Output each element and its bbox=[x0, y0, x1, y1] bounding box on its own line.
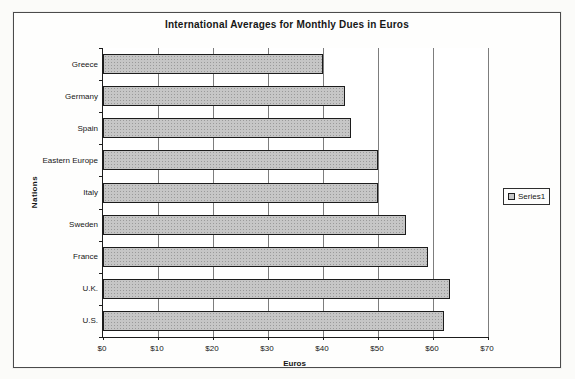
y-tick-mark bbox=[99, 273, 103, 274]
bar-sweden bbox=[103, 215, 406, 235]
bar-u-k bbox=[103, 279, 450, 299]
x-tick-mark bbox=[213, 337, 214, 340]
bar-eastern-europe bbox=[103, 150, 378, 170]
bar-greece bbox=[103, 54, 323, 74]
category-label: Germany bbox=[32, 80, 98, 112]
x-tick-label: $30 bbox=[260, 344, 273, 353]
x-tick-mark bbox=[378, 337, 379, 340]
category-label: Eastern Europe bbox=[32, 144, 98, 176]
x-tick-mark bbox=[103, 337, 104, 340]
legend-swatch-icon bbox=[508, 193, 515, 200]
bar-germany bbox=[103, 86, 345, 106]
y-tick-mark bbox=[99, 144, 103, 145]
y-tick-mark bbox=[99, 241, 103, 242]
x-tick-label: $60 bbox=[425, 344, 438, 353]
x-tick-label: $0 bbox=[98, 344, 107, 353]
x-tick-label: $50 bbox=[370, 344, 383, 353]
category-label: U.S. bbox=[32, 305, 98, 337]
x-tick-mark bbox=[488, 337, 489, 340]
y-tick-mark bbox=[99, 48, 103, 49]
category-label: Spain bbox=[32, 112, 98, 144]
bar-u-s bbox=[103, 311, 444, 331]
x-tick-mark bbox=[158, 337, 159, 340]
y-tick-mark bbox=[99, 305, 103, 306]
bar-france bbox=[103, 247, 428, 267]
category-label: France bbox=[32, 241, 98, 273]
plot-area bbox=[102, 48, 488, 338]
chart-title: International Averages for Monthly Dues … bbox=[14, 19, 560, 30]
x-tick-mark bbox=[433, 337, 434, 340]
x-tick-label: $40 bbox=[315, 344, 328, 353]
category-label: Greece bbox=[32, 48, 98, 80]
legend: Series1 bbox=[503, 188, 550, 205]
x-tick-label: $10 bbox=[150, 344, 163, 353]
category-label: U.K. bbox=[32, 273, 98, 305]
chart-frame: International Averages for Monthly Dues … bbox=[13, 12, 561, 368]
category-axis-labels: GreeceGermanySpainEastern EuropeItalySwe… bbox=[32, 48, 98, 337]
y-tick-mark bbox=[99, 80, 103, 81]
x-axis-title: Euros bbox=[102, 359, 487, 368]
y-tick-mark bbox=[99, 337, 103, 338]
x-tick-label: $20 bbox=[205, 344, 218, 353]
y-tick-mark bbox=[99, 176, 103, 177]
bar-spain bbox=[103, 118, 351, 138]
x-tick-mark bbox=[323, 337, 324, 340]
x-tick-label: $70 bbox=[480, 344, 493, 353]
bar-italy bbox=[103, 183, 378, 203]
gridline bbox=[488, 48, 489, 337]
category-label: Sweden bbox=[32, 209, 98, 241]
legend-label: Series1 bbox=[518, 192, 545, 201]
x-tick-mark bbox=[268, 337, 269, 340]
y-tick-mark bbox=[99, 209, 103, 210]
category-label: Italy bbox=[32, 176, 98, 208]
y-tick-mark bbox=[99, 112, 103, 113]
x-axis-labels: $0$10$20$30$40$50$60$70 bbox=[102, 344, 487, 354]
